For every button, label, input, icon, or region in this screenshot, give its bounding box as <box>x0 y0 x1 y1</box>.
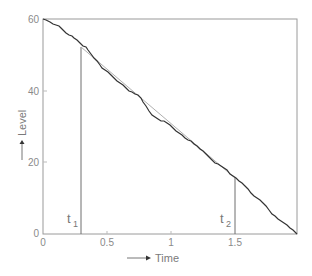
chart: 60 40 20 0 0 0.5 1 1.5 t 1 t 2 Level <box>0 0 312 276</box>
y-tick-0: 0 <box>33 228 39 239</box>
y-tick-20: 20 <box>28 157 40 168</box>
svg-text:Level: Level <box>16 110 28 136</box>
svg-text:t: t <box>67 211 71 226</box>
y-axis-title: Level <box>16 110 28 160</box>
x-axis-title: Time <box>127 252 179 264</box>
t1-label: t 1 <box>67 211 78 229</box>
svg-text:Time: Time <box>155 252 179 264</box>
x-tick-1: 1 <box>168 237 174 248</box>
svg-text:2: 2 <box>226 219 231 229</box>
y-ticks <box>43 91 47 162</box>
svg-text:1: 1 <box>73 219 78 229</box>
x-tick-0: 0 <box>40 237 46 248</box>
y-tick-60: 60 <box>28 14 40 25</box>
y-tick-40: 40 <box>28 86 40 97</box>
t2-label: t 2 <box>220 211 231 229</box>
chart-svg: 60 40 20 0 0 0.5 1 1.5 t 1 t 2 Level <box>0 0 312 276</box>
chord-line <box>81 47 235 178</box>
svg-text:t: t <box>220 211 224 226</box>
x-tick-1-5: 1.5 <box>228 237 242 248</box>
x-tick-0-5: 0.5 <box>100 237 114 248</box>
